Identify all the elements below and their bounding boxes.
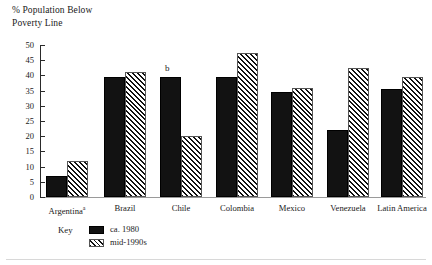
y-tick-label-40: 40 [8, 71, 34, 80]
y-tick-45 [40, 60, 45, 61]
bar-colombia-mid-1990s [237, 53, 258, 197]
bar-mexico-mid-1990s [292, 88, 313, 197]
y-tick-25 [40, 121, 45, 122]
bar-brazil-ca-1980 [104, 77, 125, 197]
y-tick-50 [40, 45, 45, 46]
x-label-latin-america: Latin America [357, 203, 432, 213]
legend-title: Key [58, 225, 73, 235]
bar-latin-america-mid-1990s [402, 77, 423, 197]
annotation-b: b [165, 63, 170, 73]
bar-argentina-mid-1990s [67, 161, 88, 197]
legend-swatch-ca-1980 [89, 226, 104, 234]
y-tick-label-20: 20 [8, 132, 34, 141]
y-tick-10 [40, 167, 45, 168]
bar-venezuela-mid-1990s [348, 68, 369, 197]
y-tick-label-25: 25 [8, 117, 34, 126]
bar-chile-mid-1990s [181, 136, 202, 197]
legend-label-ca-1980: ca. 1980 [110, 224, 139, 234]
x-axis-baseline [40, 197, 426, 198]
bar-latin-america-ca-1980 [381, 89, 402, 197]
legend-swatch-mid-1990s [89, 239, 104, 247]
bar-brazil-mid-1990s [125, 72, 146, 197]
y-tick-label-0: 0 [8, 193, 34, 202]
y-tick-20 [40, 136, 45, 137]
y-tick-label-15: 15 [8, 147, 34, 156]
bar-group-latin-america [381, 45, 423, 197]
y-tick-0 [40, 197, 45, 198]
bar-colombia-ca-1980 [216, 77, 237, 197]
poverty-bar-chart: % Population Below Poverty Line 05101520… [0, 0, 432, 265]
bar-chile-ca-1980 [160, 77, 181, 197]
bar-group-venezuela [327, 45, 369, 197]
bar-group-brazil [104, 45, 146, 197]
y-tick-40 [40, 75, 45, 76]
legend-label-mid-1990s: mid-1990s [110, 237, 147, 247]
y-tick-15 [40, 151, 45, 152]
y-tick-label-45: 45 [8, 56, 34, 65]
bar-venezuela-ca-1980 [327, 130, 348, 197]
bottom-divider [6, 259, 426, 260]
bar-argentina-ca-1980 [46, 176, 67, 197]
y-tick-label-5: 5 [8, 178, 34, 187]
y-tick-label-35: 35 [8, 87, 34, 96]
bar-group-argentina [46, 45, 88, 197]
y-tick-30 [40, 106, 45, 107]
bar-group-colombia [216, 45, 258, 197]
y-tick-label-30: 30 [8, 102, 34, 111]
bar-mexico-ca-1980 [271, 92, 292, 197]
y-tick-5 [40, 182, 45, 183]
y-tick-35 [40, 91, 45, 92]
y-tick-label-50: 50 [8, 41, 34, 50]
y-tick-label-10: 10 [8, 163, 34, 172]
bar-group-mexico [271, 45, 313, 197]
y-axis-title: % Population Below Poverty Line [12, 4, 92, 29]
